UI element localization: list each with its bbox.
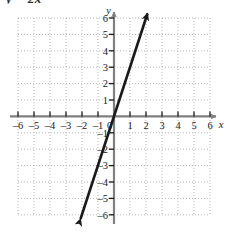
x-tick-label: 6: [207, 120, 212, 131]
x-tick-label: –2: [76, 120, 88, 131]
y-tick-label: –4: [97, 177, 109, 188]
y-axis-label: y: [105, 5, 111, 16]
y-tick-label: 4: [103, 46, 109, 57]
y-tick-label: 2: [103, 78, 108, 89]
y-tick-label: 5: [103, 29, 108, 40]
coordinate-plane-plot: –6 –5 –4 –3 –2 –1 0 1 2 3 4 5 6 6 5 4 3 …: [0, 0, 231, 232]
y-tick-label: –6: [97, 210, 109, 221]
x-tick-label: 1: [127, 120, 132, 131]
x-tick-label: 5: [191, 120, 196, 131]
x-tick-label: –4: [44, 120, 56, 131]
y-tick-label: 3: [103, 62, 108, 73]
x-axis-label: x: [218, 119, 224, 130]
graph-figure: y = 2x: [0, 0, 231, 232]
x-tick-label: –5: [28, 120, 40, 131]
x-tick-label: 4: [175, 120, 181, 131]
y-tick-label: –5: [97, 193, 109, 204]
x-tick-label: 3: [159, 120, 164, 131]
caption-fragment: y = 2x: [6, 0, 66, 4]
x-tick-label: 2: [143, 120, 148, 131]
x-tick-label: –3: [60, 120, 72, 131]
x-tick-label: –6: [12, 120, 24, 131]
y-tick-label: 1: [103, 95, 108, 106]
